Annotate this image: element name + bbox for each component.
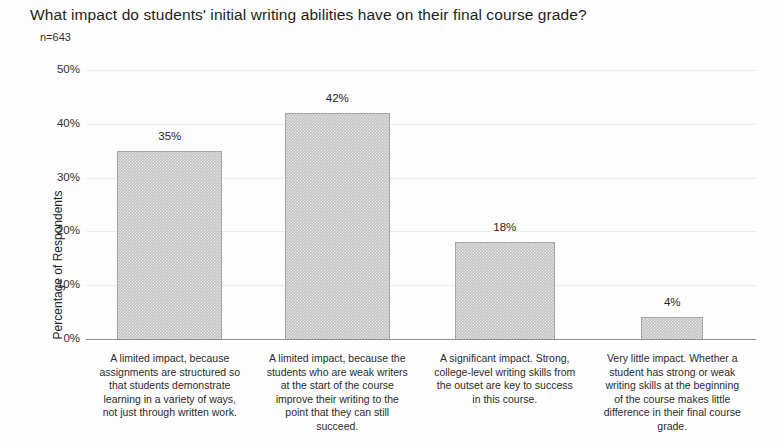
y-axis-tick-label: 10% bbox=[34, 278, 80, 290]
bar bbox=[455, 242, 555, 339]
bar-value-label: 4% bbox=[632, 296, 712, 308]
y-axis: Percentage of Respondents 0%10%20%30%40%… bbox=[30, 70, 80, 339]
category-label-line: A significant impact. Strong, bbox=[425, 352, 585, 366]
category-label-line: A limited impact, because bbox=[90, 352, 250, 366]
bar bbox=[285, 113, 390, 339]
category-label-line: Very little impact. Whether a bbox=[593, 352, 753, 366]
bar-chart-figure: What impact do students' initial writing… bbox=[0, 0, 780, 442]
bar bbox=[641, 317, 703, 339]
y-axis-tick-label: 30% bbox=[34, 171, 80, 183]
bar-value-label: 42% bbox=[297, 92, 377, 104]
y-axis-tick-label: 0% bbox=[34, 332, 80, 344]
category-label-line: point that they can still bbox=[258, 406, 418, 420]
category-label-line: of the course makes little bbox=[593, 393, 753, 407]
category-label-line: that students demonstrate bbox=[90, 379, 250, 393]
gridline bbox=[86, 124, 756, 125]
x-axis-category-label: A significant impact. Strong,college-lev… bbox=[425, 352, 585, 406]
category-label-line: grade. bbox=[593, 420, 753, 434]
category-label-line: succeed. bbox=[258, 420, 418, 434]
bar-value-label: 18% bbox=[465, 221, 545, 233]
plot-area: 35%42%18%4% bbox=[86, 70, 756, 339]
category-label-line: difference in their final course bbox=[593, 406, 753, 420]
sample-size-label: n=643 bbox=[40, 30, 71, 44]
x-axis-category-labels: A limited impact, becauseassignments are… bbox=[86, 352, 756, 440]
bar-value-label: 35% bbox=[130, 130, 210, 142]
y-axis-tick-label: 50% bbox=[34, 63, 80, 75]
category-label-line: writing skills at the beginning bbox=[593, 379, 753, 393]
category-label-line: not just through written work. bbox=[90, 406, 250, 420]
category-label-line: at the start of the course bbox=[258, 379, 418, 393]
gridline bbox=[86, 70, 756, 71]
category-label-line: the outset are key to success bbox=[425, 379, 585, 393]
x-axis-line bbox=[86, 339, 756, 340]
category-label-line: student has strong or weak bbox=[593, 366, 753, 380]
category-label-line: assignments are structured so bbox=[90, 366, 250, 380]
category-label-line: students who are weak writers bbox=[258, 366, 418, 380]
x-axis-category-label: A limited impact, becauseassignments are… bbox=[90, 352, 250, 420]
page-title: What impact do students' initial writing… bbox=[30, 5, 760, 25]
category-label-line: college-level writing skills from bbox=[425, 366, 585, 380]
category-label-line: in this course. bbox=[425, 393, 585, 407]
x-axis-category-label: Very little impact. Whether astudent has… bbox=[593, 352, 753, 434]
y-axis-tick-label: 20% bbox=[34, 224, 80, 236]
category-label-line: learning in a variety of ways, bbox=[90, 393, 250, 407]
bar bbox=[117, 151, 222, 339]
category-label-line: A limited impact, because the bbox=[258, 352, 418, 366]
x-axis-category-label: A limited impact, because thestudents wh… bbox=[258, 352, 418, 434]
y-axis-tick-label: 40% bbox=[34, 117, 80, 129]
category-label-line: improve their writing to the bbox=[258, 393, 418, 407]
